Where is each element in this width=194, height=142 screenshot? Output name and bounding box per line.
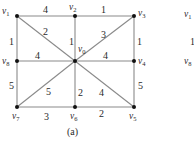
- weight-v2-v3: 1: [101, 4, 106, 15]
- node-v8: [15, 59, 19, 63]
- graph-figure-a: v1 v2 v3 v8 v0 v4 v7 v6 v5 4 1 1 1 2 1 3…: [0, 0, 194, 142]
- edge-weights: 4 1 1 1 2 1 3 4 4 5 5 5 2 4 3 2: [9, 4, 143, 122]
- label-v8: v8: [2, 56, 9, 67]
- label-v2: v2: [69, 2, 76, 13]
- label-v6: v6: [70, 111, 78, 122]
- node-v6: [73, 105, 77, 109]
- label-v3: v3: [138, 8, 145, 19]
- weight-v0-v4: 4: [103, 50, 108, 61]
- weight-v1-v8: 1: [9, 36, 14, 47]
- weight-v1-v0: 2: [43, 26, 48, 37]
- weight-v1-v2: 4: [43, 4, 48, 15]
- node-v7: [15, 105, 19, 109]
- edge-v7-v0: [17, 61, 75, 107]
- label-v4: v4: [138, 56, 146, 67]
- weight-v0-v5: 4: [99, 87, 104, 98]
- weight-v6-v5: 2: [99, 108, 104, 119]
- weight-v8-v7: 5: [9, 80, 14, 91]
- weight-v7-v0: 5: [46, 86, 51, 97]
- label-v7: v7: [12, 111, 20, 122]
- label-b-v8: v8: [184, 56, 191, 67]
- node-v4: [132, 59, 136, 63]
- label-v5: v5: [129, 111, 136, 122]
- weight-v8-v0: 4: [35, 50, 40, 61]
- node-v2: [73, 14, 77, 18]
- node-v0: [73, 59, 77, 63]
- cropped-graph-b: v1 1 v8: [184, 9, 194, 67]
- node-v3: [132, 14, 136, 18]
- weight-v4-v5: 5: [138, 80, 143, 91]
- label-b-v1: v1: [184, 9, 191, 20]
- weight-v7-v6: 3: [44, 111, 49, 122]
- edge-v0-v5: [75, 61, 134, 107]
- weight-v2-v0: 1: [69, 36, 74, 47]
- figure-caption: (a): [67, 126, 78, 138]
- weight-v3-v4: 1: [137, 36, 142, 47]
- node-v5: [132, 105, 136, 109]
- label-v0: v0: [78, 44, 85, 55]
- weight-b-1: 1: [190, 36, 194, 47]
- weight-v3-v0: 3: [101, 29, 106, 40]
- weight-v0-v6: 2: [78, 87, 83, 98]
- label-v1: v1: [2, 6, 9, 17]
- node-v1: [15, 14, 19, 18]
- edge-v1-v0: [17, 16, 75, 61]
